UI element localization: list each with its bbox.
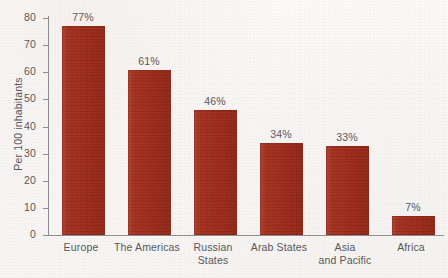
y-axis-tick-label: 20 — [0, 174, 36, 186]
y-axis-tick-label: 30 — [0, 147, 36, 159]
y-axis-tick — [43, 127, 49, 128]
bar[interactable] — [128, 70, 171, 235]
x-axis-category-label: The Americas — [114, 241, 180, 254]
x-axis-category-line: States — [180, 254, 246, 267]
y-axis-tick-label: 70 — [0, 38, 36, 50]
x-axis-category-line: and Pacific — [312, 254, 378, 267]
y-axis-tick — [43, 72, 49, 73]
y-axis-tick — [43, 45, 49, 46]
bar-value-label: 33% — [336, 131, 358, 143]
bar-value-label: 7% — [405, 201, 421, 213]
y-axis-tick — [43, 18, 49, 19]
y-axis-tick — [43, 181, 49, 182]
y-axis-tick-label: 10 — [0, 201, 36, 213]
x-axis-category-label: RussianStates — [180, 241, 246, 267]
y-axis-tick-label: 80 — [0, 11, 36, 23]
bar[interactable] — [260, 143, 303, 235]
bar-group: 46% — [194, 16, 237, 235]
x-axis-category-label: Asiaand Pacific — [312, 241, 378, 267]
y-axis-tick-label: 60 — [0, 65, 36, 77]
bar-value-label: 61% — [138, 55, 160, 67]
bar-group: 34% — [260, 16, 303, 235]
x-axis-category-line: Russian — [180, 241, 246, 254]
x-axis-category-line: Africa — [378, 241, 444, 254]
bar[interactable] — [392, 216, 435, 235]
bar-group: 77% — [62, 16, 105, 235]
x-axis-categories: EuropeThe AmericasRussianStatesArab Stat… — [48, 241, 444, 278]
x-axis-line — [48, 235, 444, 236]
bar[interactable] — [194, 110, 237, 235]
bar-chart-figure: Per 100 inhabitants 01020304050607080 77… — [0, 0, 448, 278]
x-axis-category-line: Arab States — [246, 241, 312, 254]
y-axis-tick — [43, 208, 49, 209]
bar[interactable] — [62, 26, 105, 235]
x-axis-category-label: Africa — [378, 241, 444, 254]
y-axis-tick-label: 50 — [0, 92, 36, 104]
x-axis-category-line: Europe — [48, 241, 114, 254]
x-axis-category-label: Arab States — [246, 241, 312, 254]
x-axis-category-line: The Americas — [114, 241, 180, 254]
x-axis-category-line: Asia — [312, 241, 378, 254]
bar-value-label: 77% — [72, 11, 94, 23]
bar-value-label: 34% — [270, 128, 292, 140]
bar[interactable] — [326, 146, 369, 236]
bar-value-label: 46% — [204, 95, 226, 107]
y-axis-tick — [43, 235, 49, 236]
bar-group: 7% — [392, 16, 435, 235]
plot-area: 77%61%46%34%33%7% — [48, 16, 444, 235]
bar-group: 61% — [128, 16, 171, 235]
bar-group: 33% — [326, 16, 369, 235]
y-axis-tick-label: 40 — [0, 120, 36, 132]
y-axis-tick — [43, 99, 49, 100]
y-axis-tick-label: 0 — [0, 228, 36, 240]
x-axis-category-label: Europe — [48, 241, 114, 254]
y-axis-tick — [43, 154, 49, 155]
